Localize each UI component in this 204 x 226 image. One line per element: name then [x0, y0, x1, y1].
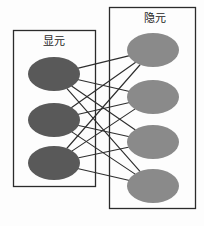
node-hidden-2[interactable]: [127, 125, 179, 159]
node-hidden-0[interactable]: [127, 33, 179, 67]
node-hidden-1[interactable]: [127, 80, 179, 114]
diagram-canvas: 显元隐元: [0, 0, 204, 226]
connection-edge: [72, 62, 136, 107]
connection-edge: [78, 56, 128, 68]
connection-edge: [72, 109, 135, 151]
layer-label-visible: 显元: [43, 35, 66, 48]
node-visible-1[interactable]: [28, 103, 80, 137]
node-hidden-3[interactable]: [127, 169, 179, 203]
layer-label-hidden: 隐元: [144, 12, 167, 25]
connection-edge: [79, 169, 129, 181]
connection-edge: [79, 103, 129, 115]
connection-edge: [79, 147, 129, 158]
nodes-group: [28, 33, 179, 203]
network-diagram: 显元隐元: [0, 0, 204, 226]
node-visible-2[interactable]: [28, 146, 80, 180]
node-visible-0[interactable]: [28, 57, 80, 91]
